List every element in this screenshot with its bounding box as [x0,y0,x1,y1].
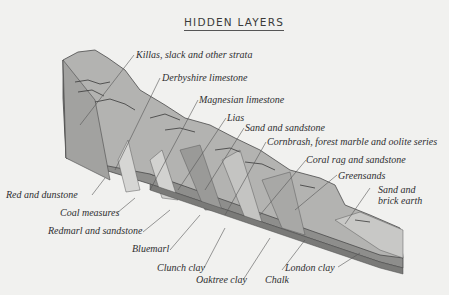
label-chalk: Chalk [265,274,289,285]
label-cornbrash: Cornbrash, forest marble and oolite seri… [267,136,437,147]
label-coal-measures: Coal measures [60,207,119,218]
hidden-layers-diagram: HIDDEN LAYERS Killas, slack and other st… [0,0,449,295]
strata-block-illustration [0,0,449,295]
diagram-title: HIDDEN LAYERS [184,16,284,31]
label-greensands: Greensands [338,170,385,181]
label-lias: Lias [227,112,244,123]
label-oaktree-clay: Oaktree clay [196,274,247,285]
label-bluemarl: Bluemarl [132,243,169,254]
label-redmarl: Redmarl and sandstone [48,225,142,236]
label-sand-and-brick-earth-1: Sand and [378,184,416,195]
label-london-clay: London clay [285,262,335,273]
label-clunch-clay: Clunch clay [157,262,205,273]
label-magnesian-limestone: Magnesian limestone [199,94,284,105]
label-sand-and-brick-earth-2: brick earth [378,195,422,206]
label-derbyshire-limestone: Derbyshire limestone [162,72,247,83]
label-killas: Killas, slack and other strata [136,49,252,60]
label-red-and-dunstone: Red and dunstone [6,189,78,200]
label-coral-rag: Coral rag and sandstone [306,154,406,165]
label-sand-and-sandstone: Sand and sandstone [245,122,325,133]
